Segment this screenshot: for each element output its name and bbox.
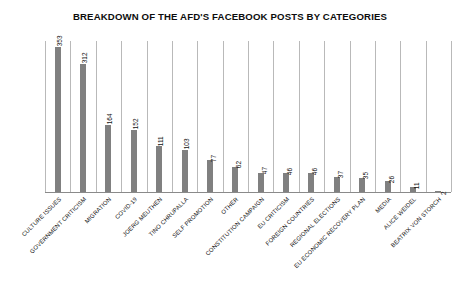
bar-group: 47	[248, 41, 273, 192]
bar-group: 62	[223, 41, 248, 192]
bar-value-label: 164	[100, 104, 117, 124]
bar-value-label: 26	[381, 163, 393, 183]
bar[interactable]	[80, 64, 86, 192]
bar-group: 2	[426, 41, 451, 192]
bar-value-label: 35	[356, 159, 368, 179]
bar[interactable]	[232, 167, 238, 192]
bar-group: 46	[273, 41, 298, 192]
bar-group: 37	[324, 41, 349, 192]
bar-group: 312	[70, 41, 95, 192]
bar-value-label: 312	[75, 44, 92, 64]
bar-chart: BREAKDOWN OF THE AFD'S FACEBOOK POSTS BY…	[0, 0, 458, 296]
bar-group: 26	[375, 41, 400, 192]
category-axis: CULTURE ISSUESGOVERNMENT CRITICISMMIGRAT…	[45, 193, 451, 293]
bar[interactable]	[308, 173, 314, 192]
bar[interactable]	[55, 47, 61, 192]
bar-value-label: 37	[331, 159, 343, 179]
bar-value-label: 111	[151, 126, 168, 146]
bar-value-label: 46	[280, 155, 292, 175]
plot-area: 3533121641521111037762474646373526112	[45, 41, 451, 193]
bar[interactable]	[131, 130, 137, 192]
bar-value-label: 11	[407, 169, 419, 189]
bar[interactable]	[182, 150, 188, 192]
bar[interactable]	[207, 160, 213, 192]
bar-value-label: 77	[204, 142, 216, 162]
bar-group: 164	[96, 41, 121, 192]
bar[interactable]	[283, 173, 289, 192]
bar[interactable]	[105, 125, 111, 192]
bar[interactable]	[156, 146, 162, 192]
bar-group: 103	[172, 41, 197, 192]
bar-group: 152	[121, 41, 146, 192]
bar-value-label: 152	[126, 109, 143, 129]
bar-value-label: 103	[176, 129, 193, 149]
chart-title: BREAKDOWN OF THE AFD'S FACEBOOK POSTS BY…	[60, 11, 400, 24]
bar-group: 11	[400, 41, 425, 192]
bar-value-label: 62	[229, 148, 241, 168]
bar-group: 353	[45, 41, 70, 192]
bar-value-label: 2	[434, 175, 442, 195]
bar-group: 35	[350, 41, 375, 192]
bar-value-label: 46	[305, 155, 317, 175]
bar-group: 77	[197, 41, 222, 192]
bar-value-label: 353	[49, 27, 66, 47]
bar-group: 46	[299, 41, 324, 192]
bar[interactable]	[258, 173, 264, 192]
bar-group: 111	[147, 41, 172, 192]
category-gridline	[451, 41, 452, 192]
bar[interactable]	[334, 177, 340, 192]
bar[interactable]	[359, 178, 365, 192]
bar-value-label: 47	[254, 155, 266, 175]
